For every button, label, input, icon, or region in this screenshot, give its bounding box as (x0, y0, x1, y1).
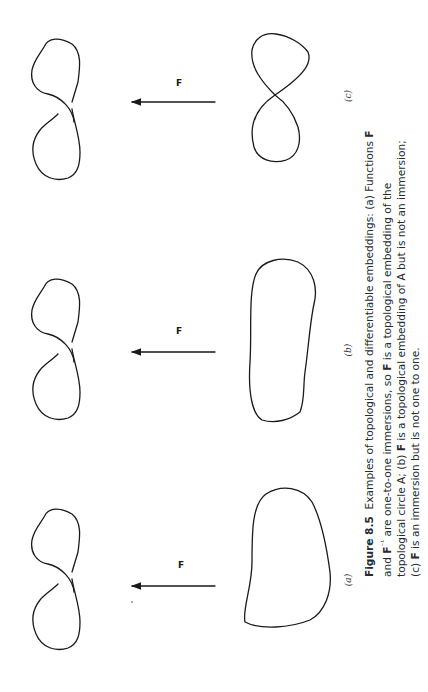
panel-c-image-curve (252, 34, 309, 162)
panel-c-map-label: F (176, 78, 182, 88)
panel-c (32, 34, 309, 180)
figure-caption: Figure 8.5 Examples of topological and d… (362, 107, 423, 577)
caption-line-4: (c) F is an immersion but is not one to … (408, 107, 423, 577)
caption-line-3: topological circle A; (b) F is a topolog… (394, 107, 409, 577)
panel-b (32, 259, 316, 421)
caption-figure-number: Figure 8.5 (363, 516, 375, 577)
figure-8-5-drawings: F F F (0, 0, 340, 692)
caption-line-2: and F⁻¹ are one-to-one immersions, so F … (377, 107, 394, 577)
panel-a-label: (a) (343, 574, 353, 586)
panel-b-map-label: F (176, 326, 182, 336)
panel-a-domain-curve-lower (33, 579, 80, 649)
panel-b-image-curve (250, 259, 316, 421)
rotated-page: F F F (a) (b) (c) Figure 8.5 Examples of… (0, 0, 428, 692)
panel-a-image-curve (244, 488, 330, 627)
panel-a-map-label: F (178, 560, 184, 570)
panel-c-label: (c) (343, 90, 353, 102)
panel-b-label: (b) (343, 344, 353, 357)
caption-line-1: Figure 8.5 Examples of topological and d… (362, 107, 377, 577)
